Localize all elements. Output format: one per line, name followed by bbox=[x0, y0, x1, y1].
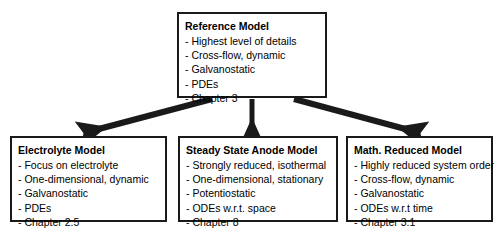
list-item: - One-dimensional, dynamic bbox=[18, 172, 159, 186]
list-item: - PDEs bbox=[185, 77, 319, 91]
list-item: - Chapter 3 bbox=[185, 91, 319, 105]
list-item: - Cross-flow, dynamic bbox=[185, 48, 319, 62]
node-reference-model-list: - Highest level of details - Cross-flow,… bbox=[185, 34, 319, 105]
node-reference-model[interactable]: Reference Model - Highest level of detai… bbox=[177, 12, 327, 98]
node-math-reduced-model-title: Math. Reduced Model bbox=[354, 143, 485, 157]
list-item: - Galvanostatic bbox=[185, 62, 319, 76]
node-math-reduced-model[interactable]: Math. Reduced Model - Highly reduced sys… bbox=[346, 136, 493, 222]
node-steady-state-anode-model[interactable]: Steady State Anode Model - Strongly redu… bbox=[178, 136, 338, 222]
list-item: - ODEs w.r.t time bbox=[354, 201, 485, 215]
list-item: - Highly reduced system order bbox=[354, 158, 485, 172]
list-item: - ODEs w.r.t. space bbox=[186, 201, 330, 215]
diagram-canvas: Reference Model - Highest level of detai… bbox=[0, 0, 503, 237]
list-item: - PDEs bbox=[18, 201, 159, 215]
node-reference-model-title: Reference Model bbox=[185, 19, 319, 33]
node-steady-state-anode-model-list: - Strongly reduced, isothermal - One-dim… bbox=[186, 158, 330, 229]
list-item: - Galvanostatic bbox=[354, 186, 485, 200]
list-item: - Galvanostatic bbox=[18, 186, 159, 200]
list-item: - Chapter 2.5 bbox=[18, 215, 159, 229]
list-item: - Highest level of details bbox=[185, 34, 319, 48]
list-item: - Chapter 3.1 bbox=[354, 215, 485, 229]
list-item: - Focus on electrolyte bbox=[18, 158, 159, 172]
node-steady-state-anode-model-title: Steady State Anode Model bbox=[186, 143, 330, 157]
list-item: - Potentiostatic bbox=[186, 186, 330, 200]
node-electrolyte-model-list: - Focus on electrolyte - One-dimensional… bbox=[18, 158, 159, 229]
node-electrolyte-model[interactable]: Electrolyte Model - Focus on electrolyte… bbox=[10, 136, 167, 222]
list-item: - One-dimensional, stationary bbox=[186, 172, 330, 186]
node-math-reduced-model-list: - Highly reduced system order - Cross-fl… bbox=[354, 158, 485, 229]
list-item: - Strongly reduced, isothermal bbox=[186, 158, 330, 172]
list-item: - Chapter 8 bbox=[186, 215, 330, 229]
node-electrolyte-model-title: Electrolyte Model bbox=[18, 143, 159, 157]
list-item: - Cross-flow, dynamic bbox=[354, 172, 485, 186]
